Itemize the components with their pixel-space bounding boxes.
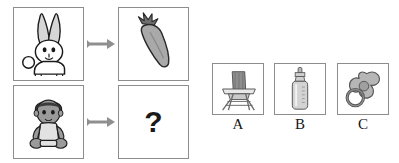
option-cell-b[interactable]: [274, 63, 326, 115]
stimulus-cell-baby[interactable]: [13, 85, 84, 159]
analogy-puzzle: ? A: [0, 0, 399, 163]
stimulus-cell-rabbit[interactable]: [13, 7, 84, 81]
option-label-a: A: [212, 117, 264, 132]
stimulus-cell-carrot[interactable]: [118, 7, 189, 81]
option-cell-c[interactable]: [337, 63, 389, 115]
option-label-c: C: [337, 117, 389, 132]
high-chair-icon: [213, 64, 263, 114]
arrow-right-icon-bottom: [86, 114, 116, 130]
carrot-icon: [119, 8, 188, 80]
rabbit-icon: [14, 8, 83, 80]
baby-icon: [14, 86, 83, 158]
baby-bottle-icon: [275, 64, 325, 114]
pacifier-icon: [338, 64, 388, 114]
option-cell-a[interactable]: [212, 63, 264, 115]
arrow-right-icon-top: [86, 36, 116, 52]
question-mark-icon: ?: [118, 85, 189, 159]
option-label-b: B: [274, 117, 326, 132]
